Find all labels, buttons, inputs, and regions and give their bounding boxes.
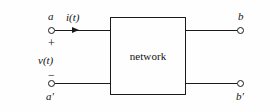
network-block[interactable]: network: [110, 17, 186, 95]
terminal-b-prime[interactable]: [237, 80, 244, 87]
terminal-b[interactable]: [237, 27, 244, 34]
wire-top-right: [186, 30, 237, 31]
polarity-negative-sign: −: [48, 69, 55, 81]
terminal-label-b-prime: b': [236, 91, 244, 102]
wire-bottom-left: [55, 83, 110, 84]
terminal-a[interactable]: [48, 27, 55, 34]
polarity-positive-sign: +: [48, 37, 55, 49]
wire-top-left: [55, 30, 110, 31]
current-label: i(t): [66, 12, 79, 23]
current-arrow-icon: [72, 27, 79, 33]
wire-bottom-right: [186, 83, 237, 84]
terminal-label-a: a: [48, 11, 54, 22]
network-block-label: network: [111, 18, 185, 94]
terminal-label-a-prime: a': [46, 91, 54, 102]
terminal-label-b: b: [238, 11, 244, 22]
circuit-diagram-canvas: network a a' b b' i(t) v(t) + −: [0, 0, 280, 112]
voltage-label: v(t): [38, 55, 53, 66]
